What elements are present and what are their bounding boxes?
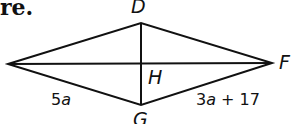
vertex-label-f: F — [279, 53, 290, 72]
vertex-label-g: G — [133, 110, 148, 124]
side-label-plus-17: + 17 — [216, 90, 260, 109]
side-label-3a: 3a — [196, 90, 216, 109]
side-label-5a-text: 5a — [51, 90, 71, 109]
intersection-label-h: H — [148, 68, 162, 87]
header-fragment: re. — [0, 0, 33, 18]
side-label-5a: 5a — [51, 92, 71, 108]
side-label-3a-plus-17: 3a + 17 — [196, 92, 260, 108]
kite-figure: re. D F G H 5a 3a + 17 — [0, 0, 298, 124]
vertex-label-d: D — [131, 0, 146, 16]
